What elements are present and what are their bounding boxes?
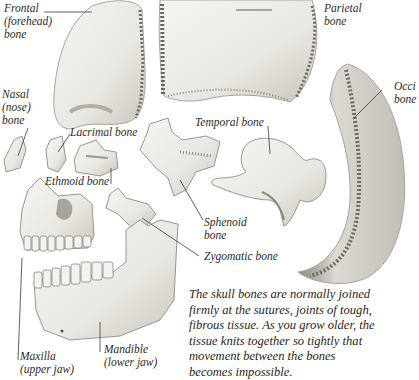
label-text: bone <box>4 28 26 40</box>
label-text: Sphenoid <box>204 216 247 228</box>
label-text: Ethmoid bone <box>45 175 109 187</box>
label-text: Parietal <box>324 2 362 14</box>
leader-sphenoid <box>180 180 203 220</box>
label-text: (lower jaw) <box>104 356 157 368</box>
nasal-bone <box>4 136 26 172</box>
label-sphenoid-bone: Sphenoid bone <box>204 216 247 242</box>
label-occipital-bone: Occi bone <box>394 80 416 106</box>
label-ethmoid-bone: Ethmoid bone <box>45 175 109 188</box>
leader-maxilla <box>18 258 22 360</box>
upper-teeth <box>24 236 91 251</box>
caption-line: movement between the bones <box>189 349 419 365</box>
maxilla-bone <box>20 178 94 251</box>
label-zygomatic-bone: Zygomatic bone <box>204 250 278 263</box>
caption-line: fibrous tissue. As you grow older, the <box>189 318 419 334</box>
label-frontal-bone: Frontal (forehead) bone <box>4 2 52 41</box>
label-text: Occi <box>394 80 416 92</box>
label-text: Lacrimal bone <box>70 126 137 138</box>
caption-line: firmly at the sutures, joints of tough, <box>189 303 419 319</box>
label-text: Temporal bone <box>195 116 264 128</box>
label-mandible-bone: Mandible (lower jaw) <box>104 343 157 369</box>
lacrimal-bone <box>46 136 66 172</box>
caption-text: The skull bones are normally joined firm… <box>189 287 419 380</box>
label-text: (upper jaw) <box>20 363 74 375</box>
label-text: Frontal <box>4 2 39 14</box>
sphenoid-bone <box>140 118 220 196</box>
label-text: bone <box>324 15 346 27</box>
label-text: bone <box>204 229 226 241</box>
frontal-bone <box>54 1 145 129</box>
caption-line: The skull bones are normally joined <box>189 287 419 303</box>
label-text: bone <box>2 114 24 126</box>
label-text: Nasal <box>2 88 29 100</box>
caption-line: tissue knits together so tightly that <box>189 334 419 350</box>
label-maxilla-bone: Maxilla (upper jaw) <box>20 350 74 376</box>
caption-line: becomes impossible. <box>189 365 419 380</box>
label-text: (nose) <box>2 101 31 113</box>
label-text: Maxilla <box>20 350 56 362</box>
label-lacrimal-bone: Lacrimal bone <box>70 126 137 139</box>
label-temporal-bone: Temporal bone <box>195 116 264 129</box>
label-parietal-bone: Parietal bone <box>324 2 362 28</box>
label-text: Mandible <box>104 343 148 355</box>
label-text: bone <box>394 93 416 105</box>
label-text: Zygomatic bone <box>204 250 278 262</box>
label-nasal-bone: Nasal (nose) bone <box>2 88 31 127</box>
label-text: (forehead) <box>4 15 52 27</box>
parietal-bone <box>159 0 317 102</box>
temporal-bone <box>212 138 326 226</box>
